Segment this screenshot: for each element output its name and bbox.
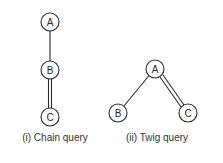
svg-text:C: C — [184, 108, 191, 119]
chain-node-c: C — [41, 108, 59, 126]
svg-text:B: B — [47, 65, 54, 76]
svg-text:C: C — [46, 112, 53, 123]
chain-node-b: B — [41, 61, 59, 79]
edge-a-b-single — [124, 76, 149, 107]
svg-text:A: A — [152, 64, 159, 75]
chain-node-a: A — [41, 13, 59, 31]
twig-node-b: B — [109, 104, 127, 122]
svg-text:A: A — [47, 17, 54, 28]
chain-query-figure: A B C (i) Chain query — [22, 13, 88, 143]
twig-query-figure: A B C (ii) Twig query — [109, 60, 197, 143]
svg-text:B: B — [115, 108, 122, 119]
edge-a-c-double-right — [163, 75, 184, 105]
twig-node-c: C — [179, 104, 197, 122]
twig-node-a: A — [146, 60, 164, 78]
chain-query-caption: (i) Chain query — [22, 132, 88, 143]
query-diagram: A B C (i) Chain query A B C (ii) Twig qu… — [0, 0, 223, 163]
twig-query-caption: (ii) Twig query — [126, 132, 188, 143]
edge-a-c-double-left — [160, 77, 181, 107]
